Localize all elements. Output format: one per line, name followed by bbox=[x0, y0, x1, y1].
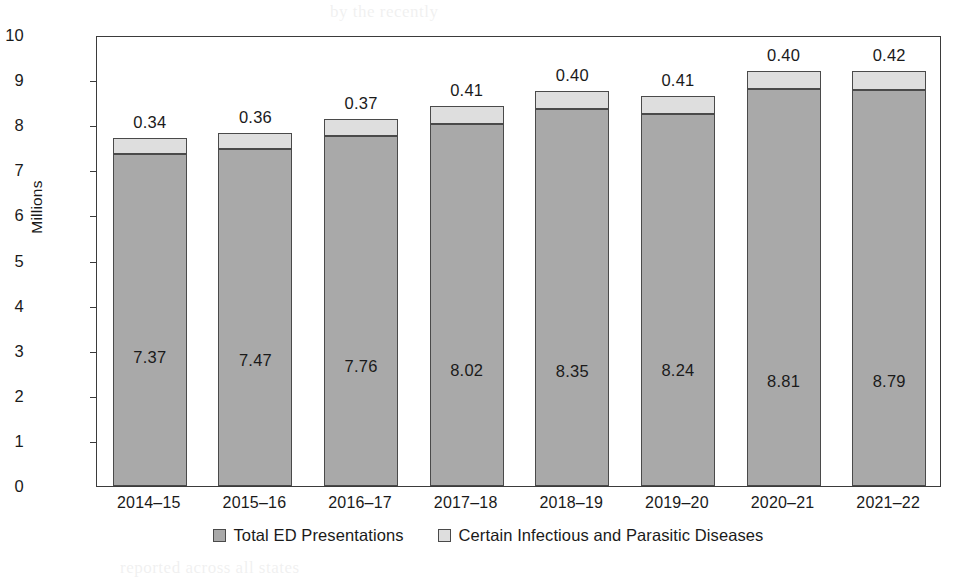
bar-group[interactable]: 8.790.42 bbox=[852, 71, 926, 486]
bar-group[interactable]: 8.020.41 bbox=[430, 106, 504, 486]
bar-segment-total-ed-presentations[interactable] bbox=[535, 109, 609, 486]
bar-value-label-total: 7.37 bbox=[113, 348, 187, 367]
bar-group[interactable]: 8.350.40 bbox=[535, 91, 609, 486]
y-axis-tick-label: 6 bbox=[0, 207, 24, 224]
x-axis-tick-label: 2015–16 bbox=[194, 494, 314, 512]
legend-item-0[interactable]: Total ED Presentations bbox=[213, 526, 404, 545]
bar-value-label-total: 8.81 bbox=[747, 372, 821, 391]
y-axis-tick-label: 3 bbox=[0, 343, 24, 360]
bar-value-label-infectious: 0.41 bbox=[416, 81, 518, 100]
legend-swatch-icon bbox=[213, 529, 226, 542]
bar-segment-total-ed-presentations[interactable] bbox=[852, 90, 926, 486]
y-axis-tick-label: 4 bbox=[0, 298, 24, 315]
y-axis-tick-label: 2 bbox=[0, 388, 24, 405]
bar-value-label-infectious: 0.41 bbox=[627, 71, 729, 90]
bar-segment-infectious-parasitic-diseases[interactable] bbox=[641, 96, 715, 114]
y-axis-tick-label: 7 bbox=[0, 162, 24, 179]
bar-segment-infectious-parasitic-diseases[interactable] bbox=[113, 138, 187, 153]
x-axis-tick-label: 2014–15 bbox=[89, 494, 209, 512]
bar-group[interactable]: 7.760.37 bbox=[324, 119, 398, 486]
bar-segment-infectious-parasitic-diseases[interactable] bbox=[852, 71, 926, 90]
bar-value-label-total: 7.47 bbox=[218, 351, 292, 370]
y-axis-tick-label: 9 bbox=[0, 72, 24, 89]
chart-legend: Total ED PresentationsCertain Infectious… bbox=[0, 526, 976, 545]
bar-value-label-infectious: 0.34 bbox=[99, 113, 201, 132]
bar-value-label-total: 8.02 bbox=[430, 361, 504, 380]
bar-segment-total-ed-presentations[interactable] bbox=[324, 136, 398, 486]
bar-segment-infectious-parasitic-diseases[interactable] bbox=[324, 119, 398, 136]
bar-segment-infectious-parasitic-diseases[interactable] bbox=[218, 133, 292, 149]
bar-segment-infectious-parasitic-diseases[interactable] bbox=[430, 106, 504, 124]
bar-segment-total-ed-presentations[interactable] bbox=[430, 124, 504, 486]
bar-value-label-infectious: 0.37 bbox=[310, 94, 412, 113]
legend-item-1[interactable]: Certain Infectious and Parasitic Disease… bbox=[438, 526, 764, 545]
plot-area: 7.370.347.470.367.760.378.020.418.350.40… bbox=[96, 36, 941, 487]
bar-group[interactable]: 7.370.34 bbox=[113, 138, 187, 486]
legend-label: Certain Infectious and Parasitic Disease… bbox=[459, 526, 764, 545]
x-axis-tick-label: 2018–19 bbox=[511, 494, 631, 512]
y-axis-title: Millions bbox=[28, 137, 46, 277]
bar-segment-total-ed-presentations[interactable] bbox=[747, 89, 821, 486]
x-axis-tick-label: 2017–18 bbox=[406, 494, 526, 512]
x-axis-tick-label: 2016–17 bbox=[300, 494, 420, 512]
bar-group[interactable]: 7.470.36 bbox=[218, 133, 292, 486]
bar-segment-total-ed-presentations[interactable] bbox=[218, 149, 292, 486]
bar-segment-infectious-parasitic-diseases[interactable] bbox=[535, 91, 609, 109]
y-axis-tick-label: 5 bbox=[0, 253, 24, 270]
bar-segment-infectious-parasitic-diseases[interactable] bbox=[747, 71, 821, 89]
legend-label: Total ED Presentations bbox=[234, 526, 404, 545]
bar-value-label-infectious: 0.36 bbox=[204, 108, 306, 127]
bar-value-label-total: 8.79 bbox=[852, 372, 926, 391]
x-axis-tick-label: 2019–20 bbox=[617, 494, 737, 512]
legend-swatch-icon bbox=[438, 529, 451, 542]
bar-value-label-total: 8.35 bbox=[535, 362, 609, 381]
x-axis-tick-label: 2020–21 bbox=[723, 494, 843, 512]
bar-segment-total-ed-presentations[interactable] bbox=[641, 114, 715, 486]
bar-group[interactable]: 8.240.41 bbox=[641, 96, 715, 486]
y-axis-tick-label: 0 bbox=[0, 478, 24, 495]
bar-segment-total-ed-presentations[interactable] bbox=[113, 154, 187, 486]
bar-value-label-infectious: 0.40 bbox=[733, 46, 835, 65]
y-axis-tick-label: 10 bbox=[0, 27, 24, 44]
y-axis-tick-label: 1 bbox=[0, 433, 24, 450]
bar-group[interactable]: 8.810.40 bbox=[747, 71, 821, 486]
bar-value-label-total: 7.76 bbox=[324, 357, 398, 376]
bar-value-label-infectious: 0.42 bbox=[838, 46, 940, 65]
y-axis-tick-label: 8 bbox=[0, 117, 24, 134]
bar-value-label-total: 8.24 bbox=[641, 361, 715, 380]
bar-value-label-infectious: 0.40 bbox=[521, 66, 623, 85]
x-axis-tick-label: 2021–22 bbox=[828, 494, 948, 512]
